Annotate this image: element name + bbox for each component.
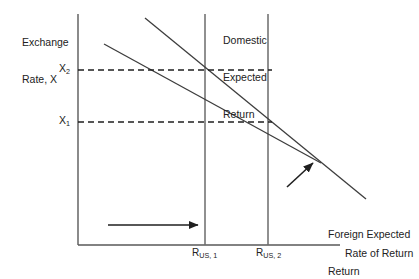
diagonal-shift-arrow — [287, 163, 313, 187]
y-tick-x2-subscript: 2 — [66, 67, 70, 76]
domestic-return-label: Domestic Expected Return — [223, 9, 267, 145]
y-tick-x1-subscript: 1 — [66, 119, 70, 128]
foreign-return-line-initial — [104, 44, 321, 163]
x-tick-label-rus2: RUS, 2 — [256, 247, 281, 259]
x-tick-label-rus1: RUS, 1 — [192, 247, 217, 259]
domestic-return-label-line1: Domestic — [223, 34, 267, 46]
y-tick-x2-base: X — [59, 62, 66, 74]
domestic-return-label-line2: Expected — [223, 71, 267, 83]
foreign-return-label: Foreign Expected Return — [328, 203, 410, 279]
y-axis-title-line1: Exchange — [22, 36, 69, 48]
x-axis-title: Rate of Return — [345, 247, 413, 259]
y-tick-label-x1: X1 — [59, 114, 70, 126]
foreign-return-label-line1: Foreign Expected — [328, 228, 410, 240]
x-tick-rus1-subscript: US, 1 — [199, 251, 217, 260]
y-axis-title: Exchange Rate, X — [22, 11, 69, 110]
y-axis-title-line2: Rate, X — [22, 73, 69, 85]
x-tick-rus2-subscript: US, 2 — [263, 251, 281, 260]
y-tick-x1-base: X — [59, 114, 66, 126]
y-tick-label-x2: X2 — [59, 62, 70, 74]
foreign-return-label-line2: Return — [328, 265, 410, 277]
domestic-return-label-line3: Return — [223, 108, 267, 120]
